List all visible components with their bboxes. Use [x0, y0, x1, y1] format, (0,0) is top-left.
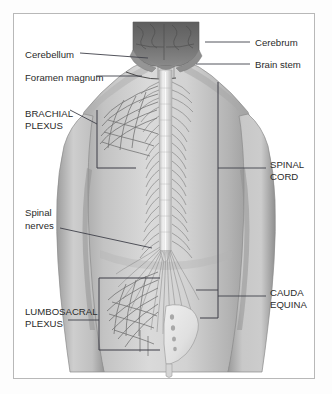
label-cerebellum: Cerebellum	[25, 49, 74, 60]
spinal-nervous-system-diagram: Cerebellum Foramen magnum Cerebrum Brain…	[0, 0, 332, 394]
label-spinal-cord-line1: SPINAL	[270, 159, 305, 170]
label-brachial-plexus-line2: PLEXUS	[25, 120, 63, 131]
label-brain-stem: Brain stem	[255, 59, 301, 70]
label-lumbosacral-plexus-line2: PLEXUS	[25, 318, 63, 329]
label-spinal-cord-line2: CORD	[270, 171, 298, 182]
label-cauda-equina-line2: EQUINA	[270, 299, 307, 310]
label-cerebrum: Cerebrum	[255, 37, 298, 48]
label-spinal-nerves-line2: nerves	[25, 220, 54, 231]
label-cauda-equina-line1: CAUDA	[270, 287, 304, 298]
anatomy-figure-panel: Cerebellum Foramen magnum Cerebrum Brain…	[0, 0, 332, 394]
label-spinal-nerves-line1: Spinal	[25, 207, 52, 218]
coccyx	[166, 364, 172, 378]
label-brachial-plexus-line1: BRACHIAL	[25, 108, 74, 119]
label-lumbosacral-plexus-line1: LUMBOSACRAL	[25, 306, 98, 317]
label-foramen-magnum: Foramen magnum	[25, 72, 103, 83]
